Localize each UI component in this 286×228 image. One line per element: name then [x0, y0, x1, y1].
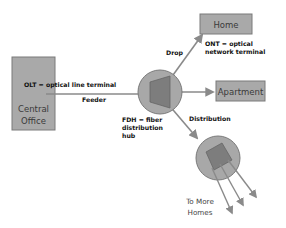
- central-office-label-1: Central: [18, 104, 49, 114]
- distribution-label: Distribution: [189, 115, 231, 122]
- fdh-annotation-3: hub: [122, 132, 136, 139]
- drop-label: Drop: [166, 49, 183, 57]
- fdh-annotation-1: FDH = fiber: [122, 116, 163, 123]
- fiber-network-diagram: Central Office OLT = optical line termin…: [0, 0, 286, 228]
- central-office-label-2: Office: [21, 116, 46, 126]
- apartment-label: Apartment: [218, 87, 264, 97]
- home-node: Home: [200, 14, 252, 34]
- feeder-label: Feeder: [82, 96, 107, 103]
- to-more-homes-label-1: To More: [185, 197, 214, 206]
- fdh-annotation-2: distribution: [122, 124, 163, 131]
- secondary-splitter: [196, 136, 240, 180]
- olt-annotation: OLT = optical line terminal: [24, 81, 116, 89]
- apartment-node: Apartment: [216, 81, 265, 101]
- home-label: Home: [213, 20, 238, 30]
- home-link-3: [228, 160, 256, 197]
- fdh-hub: [138, 70, 182, 114]
- ont-annotation-2: network terminal: [205, 48, 265, 55]
- to-more-homes-label-2: Homes: [188, 208, 213, 217]
- splitter-icon: [150, 76, 170, 108]
- ont-annotation-1: ONT = optical: [205, 40, 253, 48]
